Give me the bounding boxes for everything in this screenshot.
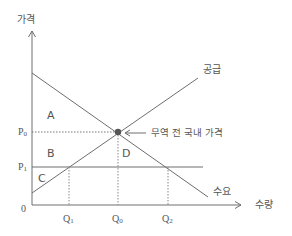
supply-demand-diagram: 가격 수량 0 공급 수요 P0 P1 Q1 Q0 Q2 A B C D 무역 … [0,0,292,236]
demand-label: 수요 [213,186,231,197]
area-c-label: C [38,172,46,185]
x-axis-label: 수량 [255,199,273,210]
p1-label: P1 [18,161,28,173]
q0-label: Q0 [112,213,123,225]
area-d-label: D [122,147,130,160]
p0-label: P0 [18,126,28,138]
area-a-label: A [47,109,55,122]
equilibrium-annotation: 무역 전 국내 가격 [151,127,223,138]
origin-label: 0 [21,203,26,214]
y-axis-label: 가격 [17,13,35,25]
equilibrium-point [115,129,121,135]
supply-label: 공급 [203,64,221,75]
q2-label: Q2 [162,213,173,225]
q1-label: Q1 [63,213,74,225]
area-b-label: B [47,147,55,160]
